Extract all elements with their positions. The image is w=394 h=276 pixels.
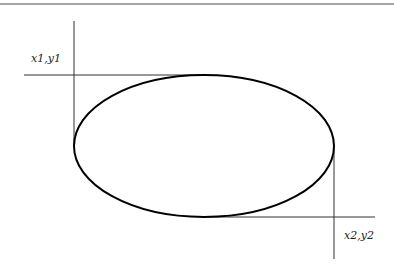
label-x2-y2: x2,y2 <box>344 229 374 242</box>
label-x1-y1: x1,y1 <box>31 52 61 65</box>
ellipse-diagram: x1,y1 x2,y2 <box>0 0 394 276</box>
ellipse-shape <box>74 75 334 217</box>
